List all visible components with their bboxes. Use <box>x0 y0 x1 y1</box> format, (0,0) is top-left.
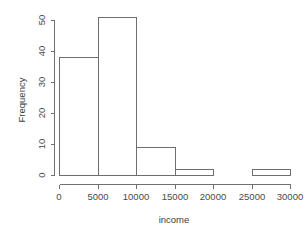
x-tick-label-15000: 15000 <box>162 191 188 202</box>
histogram-plot: 0 10 20 30 40 50 Frequency 0 5000 10000 … <box>0 0 306 241</box>
y-tick-label-20: 20 <box>36 108 47 119</box>
x-tick-label-25000: 25000 <box>239 191 265 202</box>
y-tick-label-40: 40 <box>36 46 47 57</box>
x-axis-title: income <box>159 214 190 225</box>
y-tick-label-30: 30 <box>36 77 47 88</box>
y-tick-label-0: 0 <box>36 172 47 177</box>
x-tick-label-20000: 20000 <box>200 191 226 202</box>
chart-background <box>0 0 306 241</box>
x-tick-label-0: 0 <box>56 191 61 202</box>
y-tick-label-10: 10 <box>36 139 47 150</box>
x-tick-label-30000: 30000 <box>277 191 303 202</box>
x-tick-label-10000: 10000 <box>123 191 149 202</box>
x-tick-label-5000: 5000 <box>87 191 108 202</box>
y-axis-title: Frequency <box>16 77 27 122</box>
y-tick-label-50: 50 <box>36 15 47 26</box>
chart-canvas: 0 10 20 30 40 50 Frequency 0 5000 10000 … <box>0 0 306 241</box>
